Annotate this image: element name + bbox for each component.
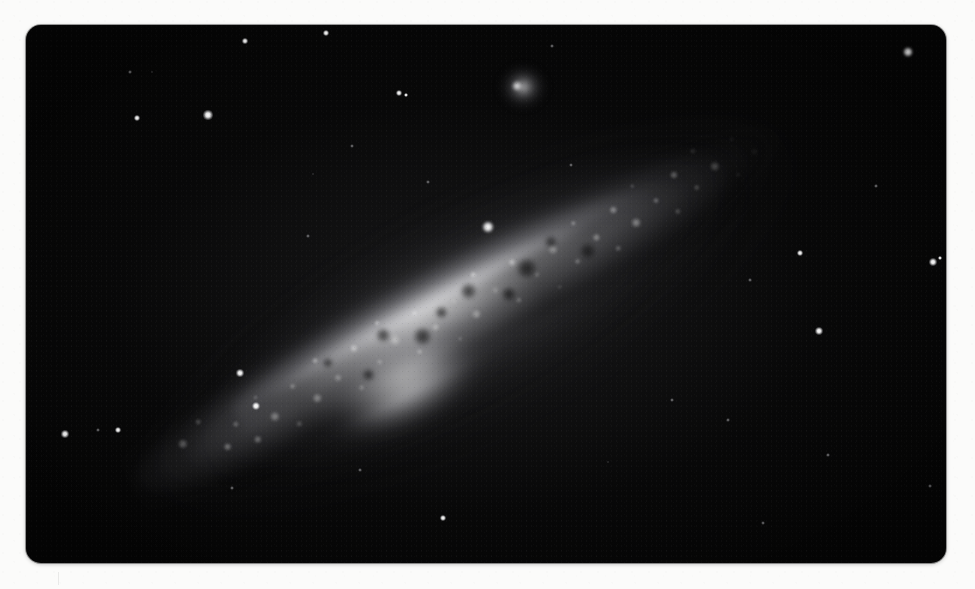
field-star (826, 453, 830, 457)
field-star (440, 515, 447, 522)
field-star (874, 184, 878, 188)
field-star (607, 461, 610, 464)
field-star (929, 258, 937, 266)
screenshot-canvas (0, 0, 975, 589)
field-star (323, 30, 330, 37)
field-star (726, 418, 729, 421)
registration-tick-mark (58, 572, 59, 585)
field-star (115, 427, 122, 434)
field-star (748, 278, 751, 281)
astronomical-photographic-plate[interactable] (26, 25, 946, 563)
field-star (203, 110, 212, 119)
field-star (903, 47, 913, 57)
field-star (426, 180, 430, 184)
field-star (230, 486, 233, 489)
field-star (236, 369, 243, 376)
field-star (350, 144, 354, 148)
field-star (312, 173, 315, 176)
field-star (252, 402, 260, 410)
field-star (569, 163, 573, 167)
field-star (242, 38, 247, 43)
field-star (797, 250, 804, 257)
field-star (306, 234, 309, 237)
field-star (96, 428, 100, 432)
field-star (61, 430, 68, 437)
field-star (815, 327, 823, 335)
foreground-star-field (26, 25, 946, 563)
field-star (761, 521, 765, 525)
field-star (928, 484, 932, 488)
field-star (134, 115, 140, 121)
field-star (128, 70, 131, 73)
field-star (550, 44, 554, 48)
field-star (482, 221, 494, 233)
field-star (670, 398, 674, 402)
field-star (358, 468, 362, 472)
field-star (404, 93, 408, 97)
field-star (396, 90, 402, 96)
field-star (151, 71, 154, 74)
field-star (938, 256, 942, 260)
